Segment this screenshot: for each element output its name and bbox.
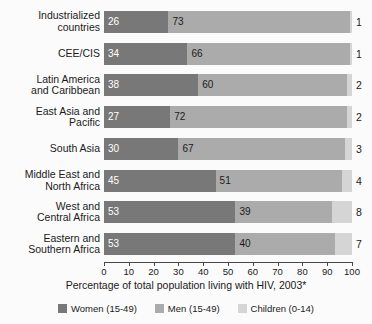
plot-area: 26733466386027723067455153395340 (104, 6, 352, 260)
stacked-bar: 3466 (104, 43, 352, 65)
x-axis-tick-label: 30 (173, 267, 184, 277)
bar-value-label: 73 (172, 17, 183, 27)
x-axis-title: Percentage of total population living wi… (0, 279, 372, 291)
legend-item: Women (15-49) (58, 303, 137, 314)
bar-value-label: 39 (239, 207, 250, 217)
bar-value-label: 40 (239, 239, 250, 249)
bar-segment-women: 34 (104, 43, 187, 65)
bar-segment-women: 53 (104, 233, 235, 255)
category-label-line: Central Africa (37, 212, 100, 224)
category-label-line: and Caribbean (31, 85, 100, 97)
stacked-bar: 2673 (104, 11, 352, 33)
bar-segment-men: 39 (235, 201, 332, 223)
category-label: Eastern andSouthern Africa (4, 233, 100, 255)
bar-segment-men: 72 (170, 106, 347, 128)
category-label-column: IndustrializedcountriesCEE/CISLatin Amer… (0, 6, 100, 260)
bar-row: 2772 (104, 106, 352, 128)
legend-label: Women (15-49) (71, 303, 137, 314)
category-label: South Asia (4, 138, 100, 160)
bar-segment-children (332, 201, 352, 223)
bar-segment-women: 30 (104, 138, 178, 160)
children-value-column: 11223487 (356, 6, 372, 260)
bar-value-label: 72 (174, 112, 185, 122)
stacked-bar-chart: IndustrializedcountriesCEE/CISLatin Amer… (0, 0, 372, 324)
bar-segment-men: 67 (178, 138, 344, 160)
stacked-bar: 3067 (104, 138, 352, 160)
category-label: Industrializedcountries (4, 11, 100, 33)
bar-row: 4551 (104, 170, 352, 192)
x-axis-tick-label: 50 (223, 267, 234, 277)
x-axis-tick-label: 90 (322, 267, 333, 277)
bar-value-label: 53 (108, 239, 119, 249)
bar-value-label: 34 (108, 49, 119, 59)
legend-item: Men (15-49) (155, 303, 220, 314)
bar-value-label: 30 (108, 144, 119, 154)
stacked-bar: 3860 (104, 74, 352, 96)
bar-row: 3466 (104, 43, 352, 65)
bar-segment-men: 66 (187, 43, 349, 65)
bar-segment-men: 73 (168, 11, 349, 33)
children-value-label: 8 (356, 201, 370, 223)
stacked-bar: 5339 (104, 201, 352, 223)
bar-value-label: 66 (191, 49, 202, 59)
stacked-bar: 4551 (104, 170, 352, 192)
bar-value-label: 27 (108, 112, 119, 122)
bar-segment-women: 26 (104, 11, 168, 33)
children-value-label: 2 (356, 106, 370, 128)
stacked-bar: 2772 (104, 106, 352, 128)
x-axis-tick-label: 60 (248, 267, 259, 277)
stacked-bar: 5340 (104, 233, 352, 255)
bar-row: 3860 (104, 74, 352, 96)
category-label: West andCentral Africa (4, 201, 100, 223)
x-axis-tick-label: 100 (344, 267, 360, 277)
x-axis-tick-label: 80 (297, 267, 308, 277)
category-label: East Asia andPacific (4, 106, 100, 128)
category-label-line: Middle East and (25, 169, 100, 181)
bar-value-label: 60 (202, 80, 213, 90)
x-axis-tick-label: 40 (198, 267, 209, 277)
bar-segment-women: 45 (104, 170, 216, 192)
x-axis-tick-label: 0 (101, 267, 106, 277)
bar-segment-children (347, 106, 352, 128)
bar-row: 3067 (104, 138, 352, 160)
bar-segment-children (350, 43, 352, 65)
bar-segment-men: 51 (216, 170, 342, 192)
bar-segment-women: 38 (104, 74, 198, 96)
bar-row: 2673 (104, 11, 352, 33)
x-axis-tick-label: 10 (124, 267, 135, 277)
children-value-label: 1 (356, 11, 370, 33)
children-value-label: 1 (356, 43, 370, 65)
category-label-line: South Asia (50, 143, 100, 155)
children-value-label: 7 (356, 233, 370, 255)
category-label-line: North Africa (45, 181, 100, 193)
bar-segment-children (350, 11, 352, 33)
legend-swatch-icon (58, 304, 67, 313)
bar-segment-children (347, 74, 352, 96)
bar-segment-women: 27 (104, 106, 170, 128)
legend-item: Children (0-14) (238, 303, 314, 314)
legend-swatch-icon (238, 304, 247, 313)
legend-label: Children (0-14) (251, 303, 314, 314)
bar-row: 5339 (104, 201, 352, 223)
category-label-line: countries (57, 22, 100, 34)
bar-value-label: 53 (108, 207, 119, 217)
bar-value-label: 26 (108, 17, 119, 27)
bar-segment-men: 60 (198, 74, 347, 96)
bar-row: 5340 (104, 233, 352, 255)
bar-value-label: 51 (220, 176, 231, 186)
bar-segment-children (342, 170, 352, 192)
bar-value-label: 45 (108, 176, 119, 186)
category-label-line: Southern Africa (28, 244, 100, 256)
category-label: CEE/CIS (4, 43, 100, 65)
children-value-label: 2 (356, 74, 370, 96)
bar-value-label: 38 (108, 80, 119, 90)
category-label: Middle East andNorth Africa (4, 170, 100, 192)
bar-segment-children (335, 233, 352, 255)
x-axis-tick-label: 20 (148, 267, 159, 277)
category-label-line: CEE/CIS (58, 48, 100, 60)
category-label: Latin Americaand Caribbean (4, 74, 100, 96)
category-label-line: Pacific (69, 117, 100, 129)
bar-value-label: 67 (182, 144, 193, 154)
bar-segment-children (345, 138, 352, 160)
children-value-label: 3 (356, 138, 370, 160)
